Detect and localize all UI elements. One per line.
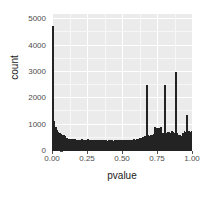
grid-line-horizontal-minor: [52, 110, 192, 111]
x-tick-label: 0.75: [137, 155, 177, 163]
grid-line-vertical: [87, 14, 88, 151]
x-tick-label: 0.25: [67, 155, 107, 163]
grid-line-horizontal-minor: [52, 31, 192, 32]
x-axis-title: pvalue: [52, 170, 192, 181]
x-tick-mark: [192, 151, 193, 154]
histogram-bar: [191, 131, 192, 151]
histogram-figure: count 010002000300040005000 0.000.250.50…: [0, 0, 208, 197]
x-tick-mark: [122, 151, 123, 154]
grid-line-horizontal-minor: [52, 84, 192, 85]
grid-line-horizontal-minor: [52, 58, 192, 59]
x-tick-mark: [157, 151, 158, 154]
grid-line-vertical-minor: [140, 14, 141, 151]
x-tick-mark: [87, 151, 88, 154]
grid-line-vertical: [122, 14, 123, 151]
x-tick-label: 1.00: [172, 155, 208, 163]
x-tick-label: 0.00: [32, 155, 72, 163]
grid-line-vertical-minor: [105, 14, 106, 151]
plot-panel: [52, 14, 192, 151]
x-tick-mark: [52, 151, 53, 154]
x-tick-label: 0.50: [102, 155, 142, 163]
grid-line-vertical-minor: [70, 14, 71, 151]
